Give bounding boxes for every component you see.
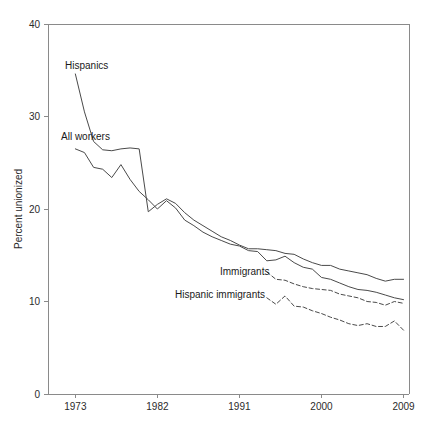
y-axis-title: Percent unionized (13, 169, 24, 249)
series-annotation-immigrants: Immigrants (220, 266, 269, 277)
line-chart: 010203040 19731982199120002009 Percent u… (0, 0, 423, 422)
x-tick-label: 1991 (228, 401, 251, 412)
y-axis: 010203040 (29, 19, 48, 400)
y-tick-label: 10 (29, 296, 41, 307)
series-line-immigrants (267, 272, 404, 305)
y-tick-label: 0 (34, 389, 40, 400)
series-annotation-all-workers: All workers (61, 131, 110, 142)
y-tick-label: 40 (29, 19, 41, 30)
y-tick-label: 30 (29, 111, 41, 122)
x-tick-label: 2009 (392, 401, 415, 412)
series-line-all-workers (75, 149, 403, 300)
chart-container: 010203040 19731982199120002009 Percent u… (0, 0, 423, 422)
series-line-hispanic-immigrants (267, 296, 404, 330)
x-tick-label: 1982 (146, 401, 169, 412)
x-axis: 19731982199120002009 (64, 394, 415, 412)
series-annotations: HispanicsAll workersImmigrantsHispanic i… (61, 60, 269, 300)
series-line-hispanics (75, 74, 403, 281)
series-annotation-hispanic-immigrants: Hispanic immigrants (175, 289, 265, 300)
y-tick-label: 20 (29, 204, 41, 215)
x-tick-label: 1973 (64, 401, 87, 412)
x-tick-label: 2000 (310, 401, 333, 412)
series-annotation-hispanics: Hispanics (65, 60, 108, 71)
plot-frame (48, 24, 409, 394)
